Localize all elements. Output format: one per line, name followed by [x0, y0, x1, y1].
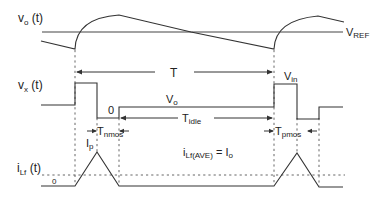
vin-label: Vin: [284, 70, 298, 84]
vx-label: vx (t): [18, 78, 43, 94]
arrowhead-right-icon: [267, 116, 273, 121]
vo-trace-group: vo (t) VREF: [18, 11, 369, 49]
tpmos-label: Tpmos: [275, 125, 301, 139]
vref-label: VREF: [346, 26, 369, 40]
period-arrow-group: T: [76, 66, 273, 80]
vo-level-label: Vo: [166, 93, 178, 107]
arrowhead-left-icon: [307, 129, 312, 133]
ilf-label: iLf (t): [17, 161, 41, 177]
tidle-label: Tidle: [182, 112, 202, 126]
zero-current-label: 0: [52, 177, 57, 186]
iave-label: iLf(AVE) = Io: [183, 146, 233, 160]
vo-label: vo (t): [18, 11, 43, 27]
ilf-trace-group: iLf (t) 0 Ip iLf(AVE) = Io: [17, 137, 345, 187]
tnmos-label: Tnmos: [97, 125, 123, 139]
arrowhead-left-icon: [120, 116, 126, 121]
period-label: T: [170, 66, 178, 80]
tidle-arrow-group: Tidle: [120, 112, 273, 126]
arrowhead-right-icon: [269, 129, 274, 133]
pfm-timing-diagram: vo (t) VREF T vx (t) Vin Vo 0 Tidle: [0, 0, 382, 202]
arrowhead-right-icon: [267, 70, 273, 75]
zero-volt-label: 0: [108, 104, 114, 116]
ip-label: Ip: [86, 137, 94, 151]
tpmos-group: Tpmos: [264, 125, 317, 139]
tnmos-group: Tnmos: [87, 125, 129, 139]
arrowhead-left-icon: [76, 70, 82, 75]
vx-trace-group: vx (t) Vin Vo 0: [18, 70, 343, 119]
vx-waveform: [41, 83, 343, 119]
